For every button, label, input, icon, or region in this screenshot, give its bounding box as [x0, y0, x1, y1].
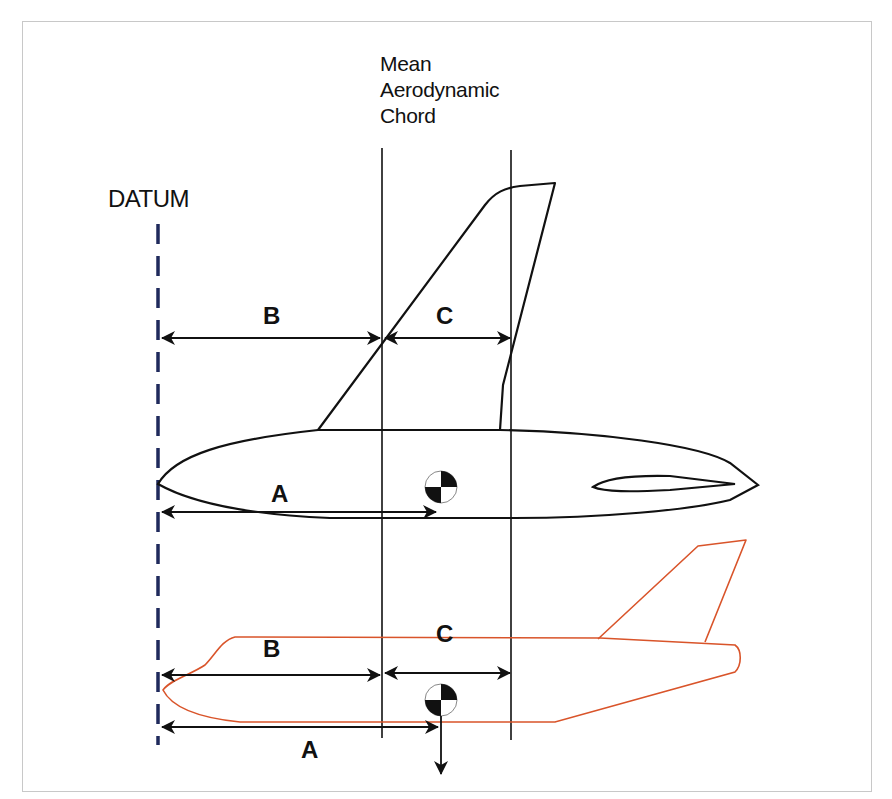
dimension-a-label-side: A [301, 738, 318, 762]
mac-title-line-1: Mean [380, 51, 499, 77]
mac-title: Mean Aerodynamic Chord [380, 51, 499, 129]
mac-title-line-3: Chord [380, 103, 499, 129]
datum-label: DATUM [108, 187, 189, 211]
dimension-c-label-side: C [436, 622, 453, 646]
cg-symbol-top [425, 471, 457, 503]
fuselage-top-view [158, 430, 758, 518]
dimension-b-label-side: B [263, 637, 280, 661]
airliner-tail-fin [598, 540, 746, 642]
dimension-a-label-top: A [271, 482, 288, 506]
cg-symbol-side [425, 684, 457, 716]
mac-title-line-2: Aerodynamic [380, 77, 499, 103]
horizontal-stabilizer [593, 476, 735, 491]
dimension-c-label-top: C [436, 304, 453, 328]
dimension-b-label-top: B [263, 304, 280, 328]
